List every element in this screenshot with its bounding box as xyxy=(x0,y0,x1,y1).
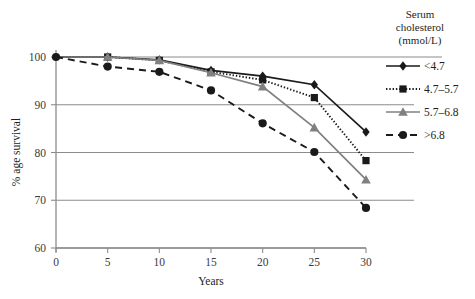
data-point-square xyxy=(362,157,369,164)
y-tick-label-60: 60 xyxy=(35,242,47,254)
x-tick-labels: 0 5 10 15 20 25 30 xyxy=(53,256,372,268)
data-point-square xyxy=(311,94,318,101)
legend-title-line-3: (mmol/L) xyxy=(399,34,442,47)
legend-key-1 xyxy=(386,85,420,92)
x-tick-label-0: 0 xyxy=(53,256,59,268)
legend-keys xyxy=(386,61,420,139)
series-3 xyxy=(52,53,370,212)
x-tick-label-25: 25 xyxy=(309,256,321,268)
legend: Serum cholesterol (mmol/L) <4.7 4.7–5.7 … xyxy=(386,8,459,141)
legend-label-1: 4.7–5.7 xyxy=(424,83,459,95)
legend-key-2 xyxy=(386,107,420,116)
series-layer xyxy=(52,52,371,212)
legend-label-0: <4.7 xyxy=(424,60,445,72)
data-point-square xyxy=(399,85,406,92)
legend-title-line-1: Serum xyxy=(406,8,435,20)
x-tick-label-20: 20 xyxy=(257,256,269,268)
y-tick-label-90: 90 xyxy=(35,99,47,111)
series-1 xyxy=(56,53,370,164)
data-point-circle xyxy=(259,119,267,127)
y-tick-label-100: 100 xyxy=(29,51,47,63)
series-0 xyxy=(56,52,370,136)
survival-line-chart: 100 90 80 70 60 0 5 10 15 20 25 30 Years… xyxy=(0,0,475,299)
x-tick-label-5: 5 xyxy=(105,256,111,268)
legend-key-0 xyxy=(386,61,420,70)
x-tick-label-15: 15 xyxy=(205,256,217,268)
data-point-circle xyxy=(155,68,163,76)
legend-title-line-2: cholesterol xyxy=(396,21,444,33)
data-point-circle xyxy=(362,204,370,212)
gridlines xyxy=(56,57,442,248)
data-point-circle xyxy=(104,62,112,70)
data-point-diamond xyxy=(399,61,406,70)
legend-label-3: >6.8 xyxy=(424,129,445,141)
y-tick-label-70: 70 xyxy=(35,194,47,206)
data-point-circle xyxy=(310,148,318,156)
y-tick-label-80: 80 xyxy=(35,147,47,159)
x-tick-label-30: 30 xyxy=(360,256,372,268)
chart-figure: 100 90 80 70 60 0 5 10 15 20 25 30 Years… xyxy=(0,0,475,299)
y-tick-labels: 100 90 80 70 60 xyxy=(29,51,47,254)
data-point-circle xyxy=(207,86,215,94)
legend-key-3 xyxy=(386,131,420,139)
x-tick-label-10: 10 xyxy=(154,256,166,268)
data-point-circle xyxy=(399,131,407,139)
x-axis-title: Years xyxy=(198,275,224,287)
data-point-circle xyxy=(52,53,60,61)
y-axis-title: % age survival xyxy=(10,118,23,186)
axes xyxy=(51,50,366,253)
legend-label-2: 5.7–6.8 xyxy=(424,106,459,118)
